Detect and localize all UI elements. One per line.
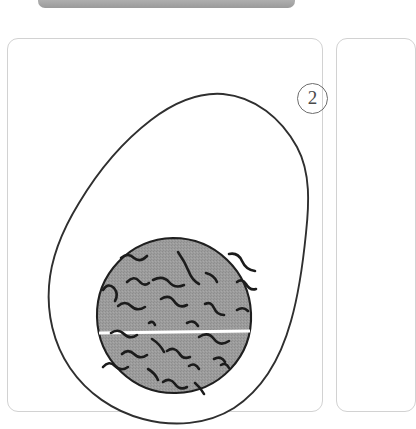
instruction-card-next[interactable] (336, 38, 416, 412)
step-number-badge: 2 (297, 83, 328, 114)
egg-cross-section-illustration (15, 77, 331, 429)
instruction-card-2[interactable]: 2 (7, 38, 323, 412)
window-title-bar[interactable] (38, 0, 295, 8)
